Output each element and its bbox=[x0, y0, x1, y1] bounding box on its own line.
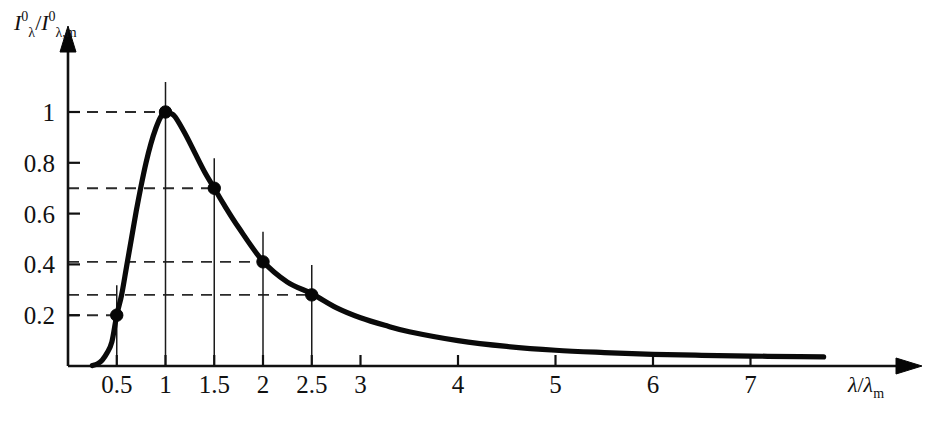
chart-figure: 0.511.522.534567 0.20.40.60.81 I0λ/I0λ,m… bbox=[0, 0, 930, 421]
y-label-denominator-subscript: λ,m bbox=[56, 25, 77, 40]
x-tick-label: 6 bbox=[647, 371, 660, 398]
data-point-marker bbox=[306, 289, 318, 301]
x-label-numerator: λ bbox=[847, 372, 858, 397]
x-tick-label: 7 bbox=[744, 371, 757, 398]
y-tick-label: 0.2 bbox=[24, 302, 55, 329]
y-tick-label: 1 bbox=[43, 99, 56, 126]
x-tick-label: 5 bbox=[549, 371, 562, 398]
data-point-marker bbox=[159, 106, 171, 118]
x-label-denominator-subscript: m bbox=[873, 386, 884, 401]
svg-text:I0λ/I0λ,m: I0λ/I0λ,m bbox=[13, 9, 77, 40]
x-axis-label: λ/λm bbox=[847, 372, 884, 401]
x-tick-label: 2.5 bbox=[296, 371, 327, 398]
x-axis-tick-labels: 0.511.522.534567 bbox=[101, 371, 757, 398]
data-curve bbox=[92, 112, 823, 366]
x-tick-label: 0.5 bbox=[101, 371, 132, 398]
data-point-marker bbox=[111, 309, 123, 321]
axes-group bbox=[60, 26, 922, 374]
x-tick-label: 2 bbox=[257, 371, 270, 398]
y-axis-label: I0λ/I0λ,m bbox=[13, 9, 77, 40]
y-tick-label: 0.6 bbox=[24, 201, 55, 228]
x-tick-label: 3 bbox=[354, 371, 367, 398]
data-point-marker bbox=[257, 256, 269, 268]
x-tick-label: 4 bbox=[452, 371, 465, 398]
x-tick-label: 1 bbox=[159, 371, 172, 398]
y-tick-label: 0.4 bbox=[24, 251, 56, 278]
x-label-denominator-symbol: λ bbox=[863, 372, 874, 397]
x-tick-label: 1.5 bbox=[199, 371, 230, 398]
y-tick-label: 0.8 bbox=[24, 150, 55, 177]
y-axis-ticks bbox=[68, 112, 80, 315]
droplines-group bbox=[117, 82, 312, 366]
x-axis-arrowhead bbox=[896, 358, 922, 374]
svg-text:λ/λm: λ/λm bbox=[847, 372, 884, 401]
chart-canvas: 0.511.522.534567 0.20.40.60.81 I0λ/I0λ,m… bbox=[0, 0, 930, 421]
y-axis-tick-labels: 0.20.40.60.81 bbox=[24, 99, 56, 329]
data-point-marker bbox=[208, 182, 220, 194]
y-label-denominator-superscript: 0 bbox=[49, 9, 56, 24]
y-label-numerator-superscript: 0 bbox=[21, 9, 28, 24]
